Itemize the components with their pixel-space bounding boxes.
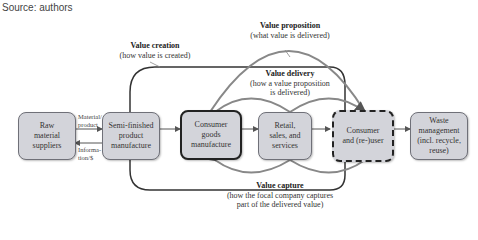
box-line: Raw <box>40 121 55 130</box>
box-line: (incl. recycle, <box>417 136 461 145</box>
value-creation-sub: (how value is created) <box>120 51 191 60</box>
box-line: material <box>34 131 60 140</box>
value-delivery-sub2: is delivered) <box>270 88 310 97</box>
box-waste-management: Wastemanagement(incl. recycle,reuse) <box>410 112 468 160</box>
value-creation-title: Value creation <box>105 41 205 51</box>
value-creation-label: Value creation (how value is created) <box>105 41 205 60</box>
box-line: management <box>419 126 460 135</box>
box-line: and (re-)user <box>342 136 383 145</box>
box-line: manufacture <box>111 141 151 150</box>
box-line: product <box>119 131 143 140</box>
value-capture-sub1: (how the focal company captures <box>227 191 333 200</box>
value-capture-title: Value capture <box>215 181 345 191</box>
box-consumer-goods-manufacture: Consumergoodsmanufacture <box>180 110 242 160</box>
box-raw-material-suppliers: Rawmaterialsuppliers <box>18 112 76 160</box>
box-line: manufacture <box>191 140 231 149</box>
box-line: goods <box>201 130 220 139</box>
value-capture-sub2: part of the delivered value) <box>237 200 324 209</box>
material-product-label: Material/ product <box>78 113 102 128</box>
box-line: reuse) <box>429 146 449 155</box>
box-line: sales, and <box>269 131 300 140</box>
value-delivery-sub1: (how a value proposition <box>250 79 330 88</box>
box-line: Retail, <box>274 121 295 130</box>
box-consumer-reuser: Consumerand (re-)user <box>332 110 394 162</box>
box-line: services <box>272 141 298 150</box>
value-proposition-label: Value proposition (what value is deliver… <box>235 21 345 40</box>
value-proposition-title: Value proposition <box>235 21 345 31</box>
box-semi-finished-manufacture: Semi-finishedproductmanufacture <box>102 112 160 160</box>
value-delivery-title: Value delivery <box>240 69 340 79</box>
box-retail-sales-services: Retail,sales, andservices <box>258 112 312 160</box>
value-proposition-sub: (what value is delivered) <box>250 31 329 40</box>
box-line: Consumer <box>347 126 380 135</box>
value-capture-label: Value capture (how the focal company cap… <box>215 181 345 210</box>
information-money-label: Informa- tion/$ <box>78 146 102 161</box>
box-line: Consumer <box>195 120 228 129</box>
box-line: Semi-finished <box>109 121 154 130</box>
value-delivery-label: Value delivery (how a value proposition … <box>240 69 340 98</box>
box-line: suppliers <box>33 141 62 150</box>
box-line: Waste <box>429 116 448 125</box>
